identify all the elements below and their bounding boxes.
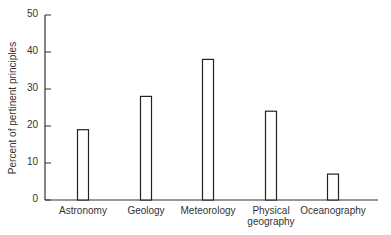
- y-tick-label: 50: [18, 8, 38, 19]
- bar-astronomy: [78, 130, 89, 200]
- plot-area: [0, 0, 391, 235]
- y-tick-label: 30: [18, 82, 38, 93]
- bar-meteorology: [203, 59, 214, 200]
- bar-oceanography: [328, 174, 339, 200]
- bar-physical-geography: [266, 111, 277, 200]
- y-tick-label: 40: [18, 45, 38, 56]
- y-tick-label: 0: [18, 193, 38, 204]
- y-tick-label: 10: [18, 156, 38, 167]
- x-tick-label: Oceanography: [293, 205, 373, 216]
- bar-chart: Percent of pertinent principles 01020304…: [0, 0, 391, 235]
- y-tick-label: 20: [18, 119, 38, 130]
- bar-geology: [141, 96, 152, 200]
- y-axis-label: Percent of pertinent principles: [7, 42, 18, 174]
